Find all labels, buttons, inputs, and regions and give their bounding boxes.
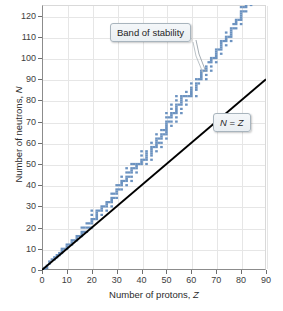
nuclide-point: [190, 87, 193, 89]
nuclide-point: [100, 205, 103, 207]
y-tick-label: 0: [4, 265, 36, 275]
nuclide-point: [240, 14, 243, 16]
nuclide-point: [98, 210, 101, 212]
x-tick-label: 30: [104, 275, 130, 285]
nuclide-point: [150, 150, 153, 152]
n-equals-z-line: [42, 79, 266, 270]
nuclide-point: [133, 163, 136, 165]
nuclide-point: [115, 193, 118, 195]
nuclide-point: [118, 188, 121, 190]
nuclide-point: [240, 6, 243, 8]
nuclide-point: [71, 239, 74, 241]
y-tick: [38, 228, 42, 229]
nuclide-point: [135, 167, 138, 169]
x-tick: [67, 270, 68, 274]
nuclide-point: [115, 188, 118, 190]
x-tick: [142, 270, 143, 274]
nuclide-point: [76, 235, 79, 237]
nuclide-point: [83, 226, 86, 228]
nuclide-point: [230, 36, 233, 38]
nuclide-point: [232, 27, 235, 29]
nuclide-point: [232, 23, 235, 25]
nuclide-point: [110, 197, 113, 199]
nuclide-point: [133, 167, 136, 169]
nuclide-point: [160, 133, 163, 135]
nuclide-point: [160, 142, 163, 144]
nuclide-point: [125, 171, 128, 173]
nuclide-point: [155, 140, 158, 142]
nuclide-point: [90, 210, 93, 212]
nuclide-point: [135, 171, 138, 173]
nuclide-point: [103, 205, 106, 207]
y-tick: [38, 16, 42, 17]
nuclide-point: [115, 190, 118, 192]
nuclide-point: [175, 95, 178, 97]
y-tick: [38, 206, 42, 207]
y-tick: [38, 249, 42, 250]
nuclide-point: [158, 142, 161, 144]
nuclide-point: [168, 116, 171, 118]
nuclide-point: [190, 95, 193, 97]
nuclide-point: [240, 19, 243, 21]
nuclide-point: [205, 78, 208, 80]
nuclide-point: [108, 201, 111, 203]
nuclide-point: [123, 180, 126, 182]
nuclide-point: [190, 82, 193, 84]
nuclide-point: [205, 74, 208, 76]
nuclide-point: [165, 112, 168, 114]
nuclide-point: [175, 106, 178, 108]
nuclide-point: [110, 205, 113, 207]
nuclide-point: [215, 61, 218, 63]
nuclide-point: [195, 84, 198, 86]
nuclide-point: [210, 57, 213, 59]
nuclide-point: [100, 210, 103, 212]
nuclide-point: [195, 87, 198, 89]
x-axis-title: Number of protons, Z: [42, 289, 266, 300]
nuclide-point: [215, 55, 218, 57]
nuclide-point: [245, 5, 248, 6]
nuclide-point: [95, 216, 98, 218]
nuclide-point: [150, 159, 153, 161]
nuclide-point: [90, 222, 93, 224]
x-tick-label: 80: [228, 275, 254, 285]
nuclide-point: [155, 146, 158, 148]
nuclide-point: [128, 171, 131, 173]
nuclide-point: [110, 199, 113, 201]
nuclide-point: [135, 163, 138, 165]
x-tick-label: 20: [79, 275, 105, 285]
nuclide-point: [105, 205, 108, 207]
y-axis-title-text: Number of neutrons,: [13, 93, 24, 182]
nuclide-point: [143, 159, 146, 161]
nuclide-point: [180, 108, 183, 110]
nuclide-point: [165, 127, 168, 129]
nuclide-point: [150, 146, 153, 148]
nuclide-point: [115, 197, 118, 199]
nuclide-point: [115, 184, 118, 186]
y-tick: [38, 143, 42, 144]
band-of-stability-label: Band of stability: [117, 27, 184, 38]
nuclide-point: [175, 112, 178, 114]
nuclide-point: [210, 65, 213, 67]
y-tick: [38, 270, 42, 271]
nuclide-point: [100, 214, 103, 216]
nuclide-point: [130, 180, 133, 182]
nuclide-point: [195, 78, 198, 80]
y-tick: [38, 164, 42, 165]
nuclide-point: [95, 214, 98, 216]
nuclide-point: [242, 10, 245, 12]
nuclide-point: [175, 110, 178, 112]
nuclide-point: [225, 38, 228, 40]
nuclide-point: [130, 163, 133, 165]
x-tick-label: 90: [253, 275, 279, 285]
nuclide-point: [220, 40, 223, 42]
nuclide-point: [155, 133, 158, 135]
nuclide-point: [180, 104, 183, 106]
nuclide-point: [217, 48, 220, 50]
nuclide-point: [237, 19, 240, 21]
x-tick-label: 50: [153, 275, 179, 285]
nuclide-point: [168, 120, 171, 122]
x-tick: [166, 270, 167, 274]
nuclide-point: [235, 21, 238, 23]
y-tick: [38, 37, 42, 38]
y-tick-label: 110: [4, 32, 36, 42]
